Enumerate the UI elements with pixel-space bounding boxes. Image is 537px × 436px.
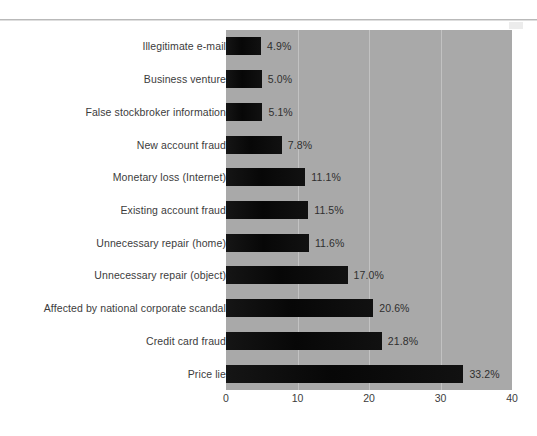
- category-label: False stockbroker information: [0, 106, 226, 118]
- bar: [226, 70, 262, 88]
- bar-row: New account fraud7.8%: [0, 128, 537, 161]
- category-label: Business venture: [0, 73, 226, 85]
- bar: [226, 234, 309, 252]
- bar-value-label: 7.8%: [288, 139, 312, 151]
- bar-row: Monetary loss (Internet)11.1%: [0, 161, 537, 194]
- bar: [226, 37, 261, 55]
- category-label: Monetary loss (Internet): [0, 171, 226, 183]
- bar-value-label: 11.1%: [311, 171, 341, 183]
- bar: [226, 266, 348, 284]
- bar-row: False stockbroker information5.1%: [0, 95, 537, 128]
- bar-rows: Illegitimate e-mail4.9%Business venture5…: [0, 30, 537, 390]
- bar-row: Affected by national corporate scandal20…: [0, 292, 537, 325]
- bar-value-label: 4.9%: [267, 40, 291, 52]
- bar-row: Business venture5.0%: [0, 63, 537, 96]
- bar: [226, 103, 262, 121]
- bar-row: Price lie33.2%: [0, 357, 537, 390]
- bar: [226, 332, 382, 350]
- x-tick-label-10: 10: [292, 392, 304, 404]
- bar-value-label: 33.2%: [469, 368, 499, 380]
- bar: [226, 299, 373, 317]
- bar-value-label: 21.8%: [388, 335, 418, 347]
- bar: [226, 136, 282, 154]
- x-tick-label-20: 20: [363, 392, 375, 404]
- bar-row: Credit card fraud21.8%: [0, 325, 537, 358]
- bar-row: Illegitimate e-mail4.9%: [0, 30, 537, 63]
- x-axis: 010203040: [226, 392, 512, 412]
- bar: [226, 201, 308, 219]
- category-label: Illegitimate e-mail: [0, 40, 226, 52]
- category-label: Existing account fraud: [0, 204, 226, 216]
- bar-value-label: 11.6%: [315, 237, 345, 249]
- bar: [226, 168, 305, 186]
- bar-value-label: 5.1%: [268, 106, 292, 118]
- bar-row: Unnecessary repair (object)17.0%: [0, 259, 537, 292]
- category-label: Credit card fraud: [0, 335, 226, 347]
- category-label: Unnecessary repair (object): [0, 269, 226, 281]
- category-label: Price lie: [0, 368, 226, 380]
- bar-value-label: 20.6%: [379, 302, 409, 314]
- bar: [226, 365, 463, 383]
- category-label: Unnecessary repair (home): [0, 237, 226, 249]
- x-tick-label-30: 30: [435, 392, 447, 404]
- category-label: Affected by national corporate scandal: [0, 302, 226, 314]
- bar-row: Unnecessary repair (home)11.6%: [0, 226, 537, 259]
- bar-value-label: 5.0%: [268, 73, 292, 85]
- bar-row: Existing account fraud11.5%: [0, 194, 537, 227]
- bar-value-label: 17.0%: [354, 269, 384, 281]
- bar-value-label: 11.5%: [314, 204, 344, 216]
- x-tick-label-40: 40: [506, 392, 518, 404]
- bar-chart: Illegitimate e-mail4.9%Business venture5…: [0, 0, 537, 436]
- category-label: New account fraud: [0, 139, 226, 151]
- x-tick-label-0: 0: [223, 392, 229, 404]
